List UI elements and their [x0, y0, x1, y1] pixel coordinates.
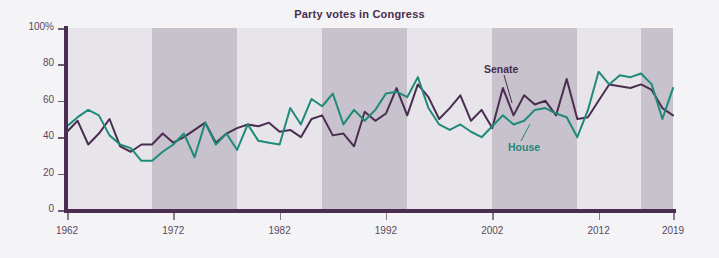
- line-series-house: [67, 72, 673, 161]
- x-tick-label: 2012: [587, 225, 609, 236]
- y-tick-label: 0: [14, 203, 54, 214]
- y-axis-line: [64, 26, 68, 212]
- x-tick-mark: [386, 213, 388, 220]
- y-tick-label: 40: [14, 130, 54, 141]
- senate-leader-line: [498, 75, 516, 105]
- y-tick-label: 20: [14, 167, 54, 178]
- series-label-senate: Senate: [484, 63, 518, 75]
- x-tick-mark: [673, 213, 675, 220]
- x-tick-label: 1982: [269, 225, 291, 236]
- chart-title: Party votes in Congress: [0, 8, 719, 20]
- x-axis-line: [64, 209, 676, 213]
- y-tick-mark: [58, 101, 64, 103]
- chart-figure: Party votes in Congress 100%806040200 19…: [0, 0, 719, 258]
- x-tick-label: 1972: [162, 225, 184, 236]
- y-tick-mark: [58, 210, 64, 212]
- y-tick-mark: [58, 137, 64, 139]
- x-tick-mark: [599, 213, 601, 220]
- y-tick-mark: [58, 64, 64, 66]
- x-tick-mark: [67, 213, 69, 220]
- x-tick-label: 2002: [481, 225, 503, 236]
- y-tick-label: 100%: [14, 21, 54, 32]
- x-tick-label: 1992: [375, 225, 397, 236]
- series-lines: [67, 28, 673, 210]
- house-leader-line: [518, 124, 536, 144]
- y-tick-mark: [58, 28, 64, 30]
- x-tick-label: 1962: [56, 225, 78, 236]
- x-tick-label: 2019: [662, 225, 684, 236]
- plot-area: [67, 28, 673, 210]
- y-tick-label: 80: [14, 57, 54, 68]
- x-tick-mark: [173, 213, 175, 220]
- y-tick-mark: [58, 174, 64, 176]
- y-tick-label: 60: [14, 94, 54, 105]
- x-tick-mark: [280, 213, 282, 220]
- x-tick-mark: [492, 213, 494, 220]
